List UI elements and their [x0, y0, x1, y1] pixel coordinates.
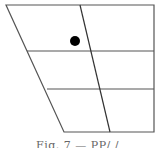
figure-caption: Fig. 7 — PP/ / [0, 139, 155, 148]
center-divider-line [80, 5, 110, 132]
chart-outline [6, 5, 154, 132]
vowel-marker-dot [70, 36, 80, 46]
vowel-chart [0, 0, 155, 148]
